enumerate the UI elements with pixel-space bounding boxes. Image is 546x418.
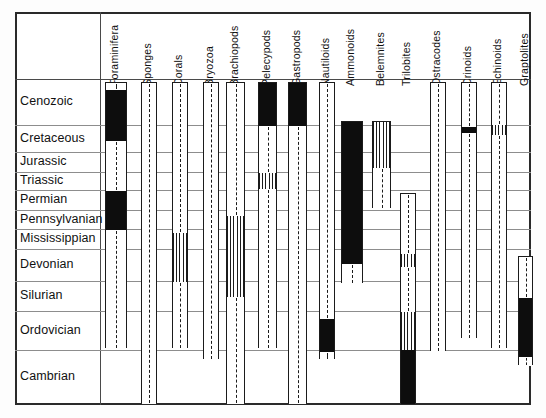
range-segment-hatch <box>492 125 506 135</box>
range-segment-hatch <box>259 173 276 189</box>
range-segment-dash <box>227 297 244 404</box>
range-segment-dash <box>289 126 306 404</box>
range-bar-sponges[interactable] <box>141 82 157 403</box>
column-header-echinoids: Echinoids <box>491 39 503 86</box>
range-segment-dash <box>320 352 334 360</box>
period-label-jurassic: Jurassic <box>20 154 67 168</box>
period-label-cretaceous: Cretaceous <box>20 131 85 145</box>
range-segment-dash <box>204 83 218 360</box>
range-bar-crinoids[interactable] <box>461 82 477 338</box>
column-header-foraminifera: Foraminifera <box>108 25 120 86</box>
range-segment-dash <box>106 83 126 90</box>
period-label-triassic: Triassic <box>20 173 63 187</box>
column-header-crinoids: Crinoids <box>461 46 473 86</box>
column-header-gastropods: Gastropods <box>290 30 302 86</box>
range-bar-bryozoa[interactable] <box>203 82 219 359</box>
range-segment-dash <box>492 83 506 125</box>
range-bar-echinoids[interactable] <box>491 82 507 348</box>
range-segment-dash <box>492 135 506 349</box>
range-bar-ostracodes[interactable] <box>430 82 446 351</box>
range-segment-dash <box>320 83 334 319</box>
period-column-divider <box>100 12 101 405</box>
range-segment-solid <box>106 90 126 141</box>
column-header-sponges: Sponges <box>141 43 153 86</box>
range-bar-gastropods[interactable] <box>288 82 307 403</box>
range-segment-dash <box>342 264 362 284</box>
period-label-permian: Permian <box>20 192 67 206</box>
range-segment-dash <box>106 141 126 191</box>
column-header-graptolites: Graptolites <box>518 33 530 86</box>
range-segment-dash <box>431 83 445 352</box>
range-bar-belemnites[interactable] <box>372 121 391 208</box>
range-segment-dash <box>173 282 187 349</box>
range-segment-hatch <box>401 312 415 350</box>
period-label-devonian: Devonian <box>20 257 74 271</box>
range-segment-dash <box>462 133 476 339</box>
range-bar-pelecypods[interactable] <box>258 82 277 348</box>
header-bottom-rule <box>15 79 531 80</box>
range-segment-solid <box>401 350 415 404</box>
gridline-ordovician <box>15 350 531 351</box>
range-segment-solid <box>320 319 334 352</box>
range-segment-dash <box>401 267 415 312</box>
range-segment-dash <box>106 230 126 349</box>
range-segment-dash <box>462 83 476 127</box>
range-bar-foraminifera[interactable] <box>105 82 127 348</box>
period-label-ordovician: Ordovician <box>20 323 81 337</box>
range-segment-dash <box>519 257 532 298</box>
column-header-ostracodes: Ostracodes <box>430 30 442 86</box>
range-segment-solid <box>342 122 362 264</box>
period-label-cambrian: Cambrian <box>20 369 75 383</box>
range-segment-solid <box>519 298 532 357</box>
range-segment-dash <box>227 83 244 216</box>
period-label-silurian: Silurian <box>20 288 63 302</box>
range-segment-hatch <box>401 254 415 267</box>
range-segment-solid <box>106 191 126 230</box>
range-bar-graptolites[interactable] <box>518 256 533 365</box>
range-bar-ammonoids[interactable] <box>341 121 363 283</box>
period-label-mississippian: Mississippian <box>20 231 96 245</box>
range-bar-brachiopods[interactable] <box>226 82 245 403</box>
range-segment-dash <box>401 194 415 254</box>
column-header-trilobites: Trilobites <box>400 42 412 86</box>
range-segment-solid <box>289 83 306 126</box>
period-label-pennsylvanian: Pennsylvanian <box>20 212 103 226</box>
column-header-belemnites: Belemnites <box>374 32 386 86</box>
range-segment-dash <box>373 168 390 209</box>
geologic-range-chart: ForaminiferaSpongesCoralsBryozoaBrachiop… <box>0 0 546 418</box>
column-header-ammonoids: Ammonoids <box>344 29 356 86</box>
range-segment-dash <box>173 83 187 233</box>
column-header-pelecypods: Pelecypods <box>260 30 272 86</box>
column-header-nautiloids: Nautiloids <box>319 38 331 86</box>
range-segment-dash <box>142 83 156 404</box>
period-label-cenozoic: Cenozoic <box>20 94 73 108</box>
range-segment-solid <box>259 83 276 126</box>
range-segment-dash <box>259 189 276 349</box>
range-segment-dash <box>259 126 276 173</box>
range-segment-dash <box>519 357 532 366</box>
column-header-bryozoa: Bryozoa <box>203 46 215 86</box>
range-segment-hatch <box>373 122 390 168</box>
column-header-brachiopods: Brachiopods <box>228 25 240 86</box>
range-bar-trilobites[interactable] <box>400 193 416 403</box>
range-bar-nautiloids[interactable] <box>319 82 335 359</box>
range-bar-corals[interactable] <box>172 82 188 348</box>
range-segment-hatch <box>227 216 244 297</box>
range-segment-hatch <box>173 233 187 282</box>
